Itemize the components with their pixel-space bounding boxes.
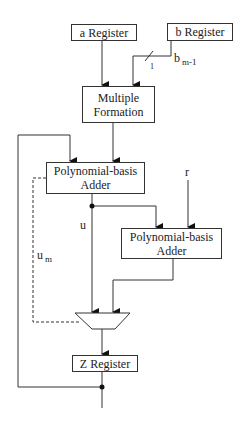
polynomial-adder-1-block: Polynomial-basis Adder bbox=[46, 162, 145, 194]
z-register-block: Z Register bbox=[72, 355, 138, 372]
bus-width-label: 1 bbox=[150, 61, 154, 73]
a-register-block: a Register bbox=[71, 24, 137, 41]
b-register-block: b Register bbox=[167, 23, 233, 41]
multiplexer bbox=[75, 313, 130, 329]
u-label: u bbox=[80, 219, 86, 231]
um-label: um bbox=[37, 249, 52, 262]
r-label: r bbox=[185, 166, 189, 178]
edge-u-to-adder2 bbox=[92, 206, 156, 227]
edge-adder2-to-mux bbox=[113, 259, 173, 312]
multiple-formation-block: Multiple Formation bbox=[82, 86, 155, 123]
b-m-1-label: bm-1 bbox=[174, 52, 197, 65]
junction-dot-z bbox=[100, 385, 105, 390]
junction-dot-u bbox=[90, 204, 95, 209]
polynomial-adder-2-block: Polynomial-basis Adder bbox=[121, 228, 222, 259]
